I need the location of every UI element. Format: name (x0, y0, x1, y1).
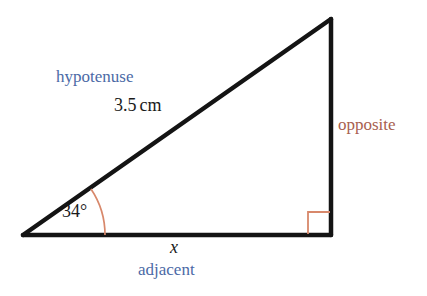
opposite-label: opposite (338, 116, 396, 133)
unknown-side-label: x (170, 238, 178, 256)
angle-arc-marker (91, 189, 105, 235)
right-angle-marker (308, 212, 330, 234)
triangle-diagram: hypotenuse 3.5cm opposite 34° x adjacent (0, 0, 427, 296)
hypotenuse-measure-unit: cm (140, 95, 162, 115)
hypotenuse-measure-label: 3.5cm (114, 96, 162, 114)
angle-measure-label: 34° (62, 202, 87, 220)
adjacent-label: adjacent (138, 261, 195, 278)
triangle-graphic (0, 0, 427, 296)
hypotenuse-measure-value: 3.5 (114, 95, 137, 115)
hypotenuse-label: hypotenuse (56, 68, 133, 85)
